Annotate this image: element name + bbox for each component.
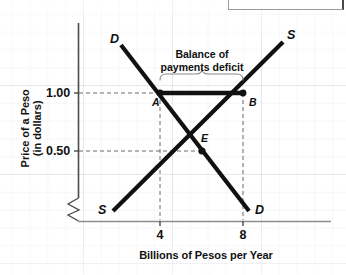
reference-lines [79,93,243,220]
x-tick-label-4: 4 [146,228,174,242]
demand-curve-label-bottom: D [255,203,264,217]
point-label-b: B [249,97,257,109]
point-label-a: A [152,97,160,109]
supply-curve-label-top: S [287,28,295,42]
deficit-annotation: Balance ofpayments deficit [152,48,252,74]
x-tick-label-8: 8 [229,228,257,242]
axis-break-zigzag [68,198,79,221]
y-tick-label-1-00: 1.00 [36,86,70,100]
x-axis-title: Billions of Pesos per Year [78,249,334,261]
demand-curve-label-top: D [110,32,119,46]
supply-curve-label-bottom: S [98,203,106,217]
deficit-annotation-line2: payments deficit [161,61,244,73]
figure-canvas: Price of a Peso(in dollars) Billions of … [0,0,346,275]
deficit-annotation-line1: Balance of [175,48,228,60]
point-label-e: E [201,133,208,145]
y-axis-title-line1: Price of a Peso [19,89,31,167]
y-tick-label-0-50: 0.50 [36,144,70,158]
point-b-marker [240,90,247,97]
point-e-marker [198,147,205,154]
